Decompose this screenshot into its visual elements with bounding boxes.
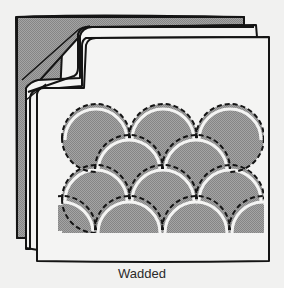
quilt-figure [0,0,284,288]
figure-caption: Wadded [0,266,284,281]
